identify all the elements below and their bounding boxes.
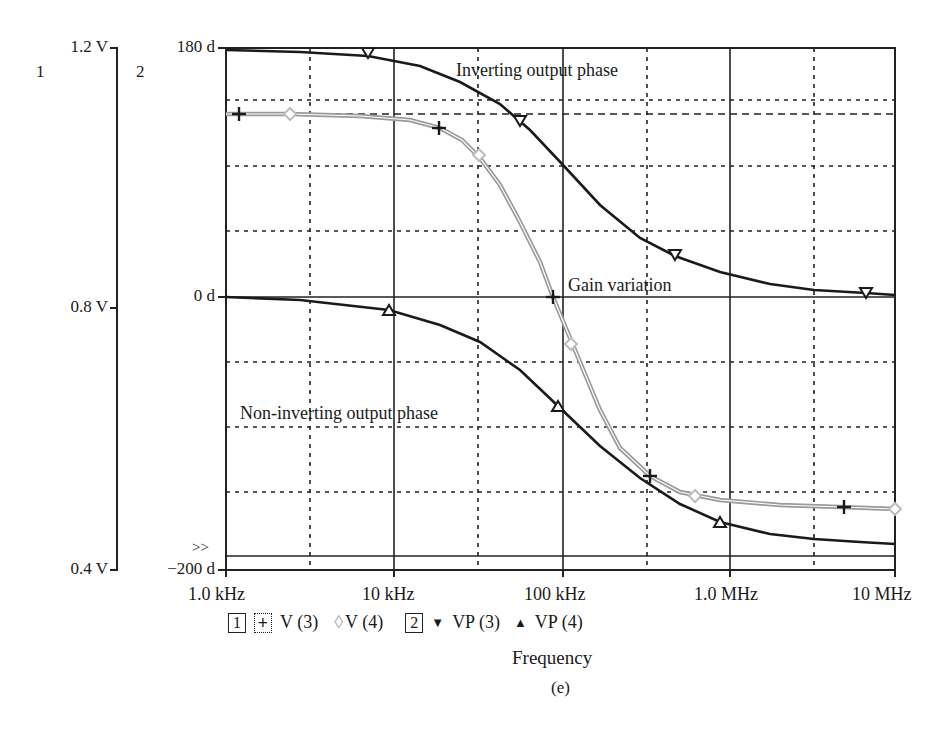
vp3-markers	[362, 48, 872, 298]
legend-axis-2: 2	[405, 613, 423, 633]
x-tick-10khz: 10 kHz	[362, 584, 415, 605]
axis-1-line	[110, 48, 118, 571]
legend-v3: V (3)	[280, 612, 318, 633]
grid-horizontal	[226, 100, 895, 492]
legend-vp3: VP (3)	[452, 612, 500, 633]
legend-vp4: VP (4)	[535, 612, 583, 633]
x-tick-1mhz: 1.0 MHz	[694, 584, 758, 605]
legend: 1 + V (3) ◊ V (4) 2 ▼ VP (3) ▲ VP (4)	[228, 612, 583, 633]
legend-v4-marker-icon: ◊	[334, 612, 343, 633]
v4-markers	[284, 108, 901, 515]
annotation-inverting-phase: Inverting output phase	[456, 60, 618, 81]
series-vp3	[226, 50, 895, 295]
figure-caption: (e)	[551, 678, 570, 698]
annotation-gain-variation: Gain variation	[568, 275, 671, 296]
legend-vp3-marker-icon: ▼	[431, 615, 444, 631]
series-v4	[226, 114, 895, 509]
x-tick-100khz: 100 kHz	[524, 584, 586, 605]
x-axis-title: Frequency	[512, 647, 592, 669]
legend-v4: V (4)	[345, 612, 383, 633]
legend-v3-marker-icon: +	[254, 613, 272, 633]
v3-markers	[232, 107, 851, 514]
x-tick-10mhz: 10 MHz	[852, 584, 912, 605]
annotation-noninverting-phase: Non-inverting output phase	[240, 403, 438, 424]
legend-axis-1: 1	[228, 613, 246, 633]
legend-vp4-marker-icon: ▲	[514, 615, 527, 631]
x-tick-1khz: 1.0 kHz	[188, 584, 245, 605]
